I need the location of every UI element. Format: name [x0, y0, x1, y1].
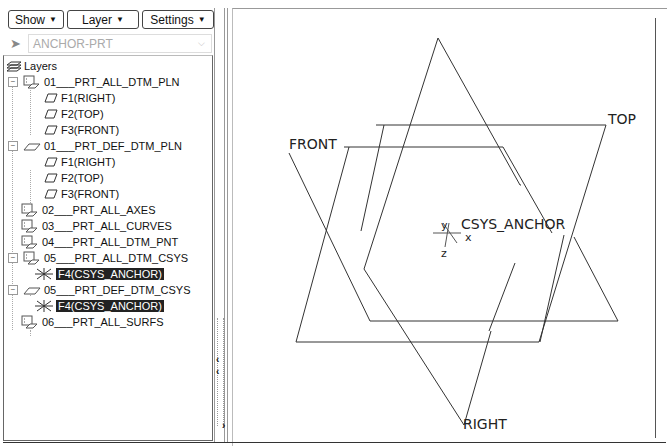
collapse-icon[interactable]: −	[8, 141, 18, 151]
default-layer-icon	[23, 285, 41, 295]
csys-z-label: z	[441, 247, 447, 260]
collapse-left-icon[interactable]: ‹	[216, 366, 219, 377]
layer-toolbar: Show ▼ Layer ▼ Settings ▼	[8, 10, 214, 30]
bottom-border	[3, 442, 666, 443]
csys-y-label: y	[441, 219, 448, 232]
settings-menu-button[interactable]: Settings ▼	[142, 10, 214, 29]
front-plane-label: FRONT	[289, 136, 337, 152]
tree-item-layer[interactable]: − 05___PRT_ALL_DTM_CSYS	[8, 250, 188, 266]
settings-label: Settings	[150, 13, 193, 27]
caret-down-icon: ▼	[49, 15, 57, 24]
collapse-icon[interactable]: −	[8, 253, 18, 263]
tree-item-plane[interactable]: F2(TOP)	[44, 106, 104, 122]
layers-stack-icon	[6, 60, 22, 72]
splitter-line	[224, 8, 225, 443]
model-selector[interactable]: ANCHOR-PRT ⌵	[28, 34, 212, 53]
model-selector-value: ANCHOR-PRT	[33, 37, 113, 51]
tree-item-label: F3(FRONT)	[61, 188, 119, 200]
tree-item-layer[interactable]: 03___PRT_ALL_CURVES	[21, 218, 172, 234]
tree-item-label: F3(FRONT)	[61, 124, 119, 136]
layer-tree: Layers − 01___PRT_ALL_DTM_PLN F1(RIGHT) …	[3, 55, 213, 441]
tree-item-label: 03___PRT_ALL_CURVES	[42, 220, 172, 232]
layer-icon	[21, 235, 39, 249]
splitter-line	[214, 8, 215, 443]
layer-label: Layer	[82, 13, 112, 27]
model-selector-row: ➤ ANCHOR-PRT ⌵	[8, 33, 212, 54]
tree-item-label: 06___PRT_ALL_SURFS	[42, 316, 163, 328]
tree-item-label: 05___PRT_ALL_DTM_CSYS	[44, 252, 188, 264]
datum-plane-icon	[44, 125, 58, 135]
pointer-arrow-icon[interactable]: ➤	[10, 36, 24, 51]
tree-item-layer[interactable]: − 01___PRT_ALL_DTM_PLN	[8, 74, 180, 90]
tree-item-label: F1(RIGHT)	[61, 156, 115, 168]
tree-item-plane[interactable]: F1(RIGHT)	[44, 154, 115, 170]
datum-plane-icon	[44, 157, 58, 167]
expand-right-icon[interactable]: ›	[222, 420, 225, 431]
tree-item-label: 01___PRT_ALL_DTM_PLN	[44, 76, 180, 88]
tree-item-layer[interactable]: 02___PRT_ALL_AXES	[21, 202, 156, 218]
datum-plane-icon	[44, 189, 58, 199]
tree-item-layer[interactable]: 06___PRT_ALL_SURFS	[21, 314, 163, 330]
chevron-down-icon: ⌵	[198, 38, 205, 49]
tree-item-layer[interactable]: 04___PRT_ALL_DTM_PNT	[21, 234, 178, 250]
tree-item-label: 02___PRT_ALL_AXES	[42, 204, 156, 216]
show-label: Show	[15, 13, 45, 27]
tree-item-label: F4(CSYS_ANCHOR)	[56, 268, 164, 280]
csys-icon	[34, 299, 54, 313]
tree-item-label: F1(RIGHT)	[61, 92, 115, 104]
tree-item-label: 01___PRT_DEF_DTM_PLN	[44, 140, 182, 152]
csys-x-label: x	[465, 231, 472, 244]
tree-connector	[30, 90, 31, 135]
viewport-right-border	[655, 18, 656, 438]
datum-planes-drawing: FRONT TOP RIGHT CSYS_ANCHOR y x z	[233, 9, 667, 446]
layer-icon	[21, 203, 39, 217]
caret-down-icon: ▼	[198, 15, 206, 24]
layer-icon	[21, 219, 39, 233]
datum-plane-icon	[44, 93, 58, 103]
default-layer-icon	[23, 141, 41, 151]
graphics-viewport[interactable]: FRONT TOP RIGHT CSYS_ANCHOR y x z	[232, 8, 667, 446]
tree-item-label: 04___PRT_ALL_DTM_PNT	[42, 236, 178, 248]
top-plane-label: TOP	[607, 111, 636, 127]
tree-root-label: Layers	[24, 60, 57, 72]
tree-item-plane[interactable]: F3(FRONT)	[44, 186, 119, 202]
collapse-icon[interactable]: −	[8, 77, 18, 87]
csys-icon	[34, 267, 54, 281]
panel-splitter[interactable]: ‹ ‹ ›	[214, 0, 232, 445]
layer-tree-panel: Show ▼ Layer ▼ Settings ▼ ➤ ANCHOR-PRT ⌵…	[0, 0, 214, 445]
tree-item-csys[interactable]: F4(CSYS_ANCHOR)	[34, 266, 164, 282]
tree-item-default-layer[interactable]: − 05___PRT_DEF_DTM_CSYS	[8, 282, 191, 298]
layer-icon	[21, 315, 39, 329]
tree-root-layers[interactable]: Layers	[6, 58, 57, 74]
tree-item-label: 05___PRT_DEF_DTM_CSYS	[44, 284, 191, 296]
layer-icon	[23, 251, 41, 265]
tree-item-default-layer[interactable]: − 01___PRT_DEF_DTM_PLN	[8, 138, 182, 154]
tree-item-plane[interactable]: F2(TOP)	[44, 170, 104, 186]
caret-down-icon: ▼	[116, 15, 124, 24]
collapse-left-icon[interactable]: ‹	[216, 354, 219, 365]
show-menu-button[interactable]: Show ▼	[8, 10, 64, 29]
datum-plane-icon	[44, 173, 58, 183]
tree-item-label: F2(TOP)	[61, 108, 104, 120]
datum-plane-icon	[44, 109, 58, 119]
collapse-icon[interactable]: −	[8, 285, 18, 295]
tree-item-csys[interactable]: F4(CSYS_ANCHOR)	[34, 298, 164, 314]
tree-item-label: F2(TOP)	[61, 172, 104, 184]
layer-icon	[23, 75, 41, 89]
csys-label: CSYS_ANCHOR	[461, 216, 565, 232]
tree-item-plane[interactable]: F1(RIGHT)	[44, 90, 115, 106]
tree-connector	[30, 330, 31, 336]
tree-item-label: F4(CSYS_ANCHOR)	[56, 300, 164, 312]
layer-menu-button[interactable]: Layer ▼	[67, 10, 139, 29]
splitter-line	[227, 8, 228, 443]
tree-item-plane[interactable]: F3(FRONT)	[44, 122, 119, 138]
right-plane-label: RIGHT	[463, 416, 507, 432]
